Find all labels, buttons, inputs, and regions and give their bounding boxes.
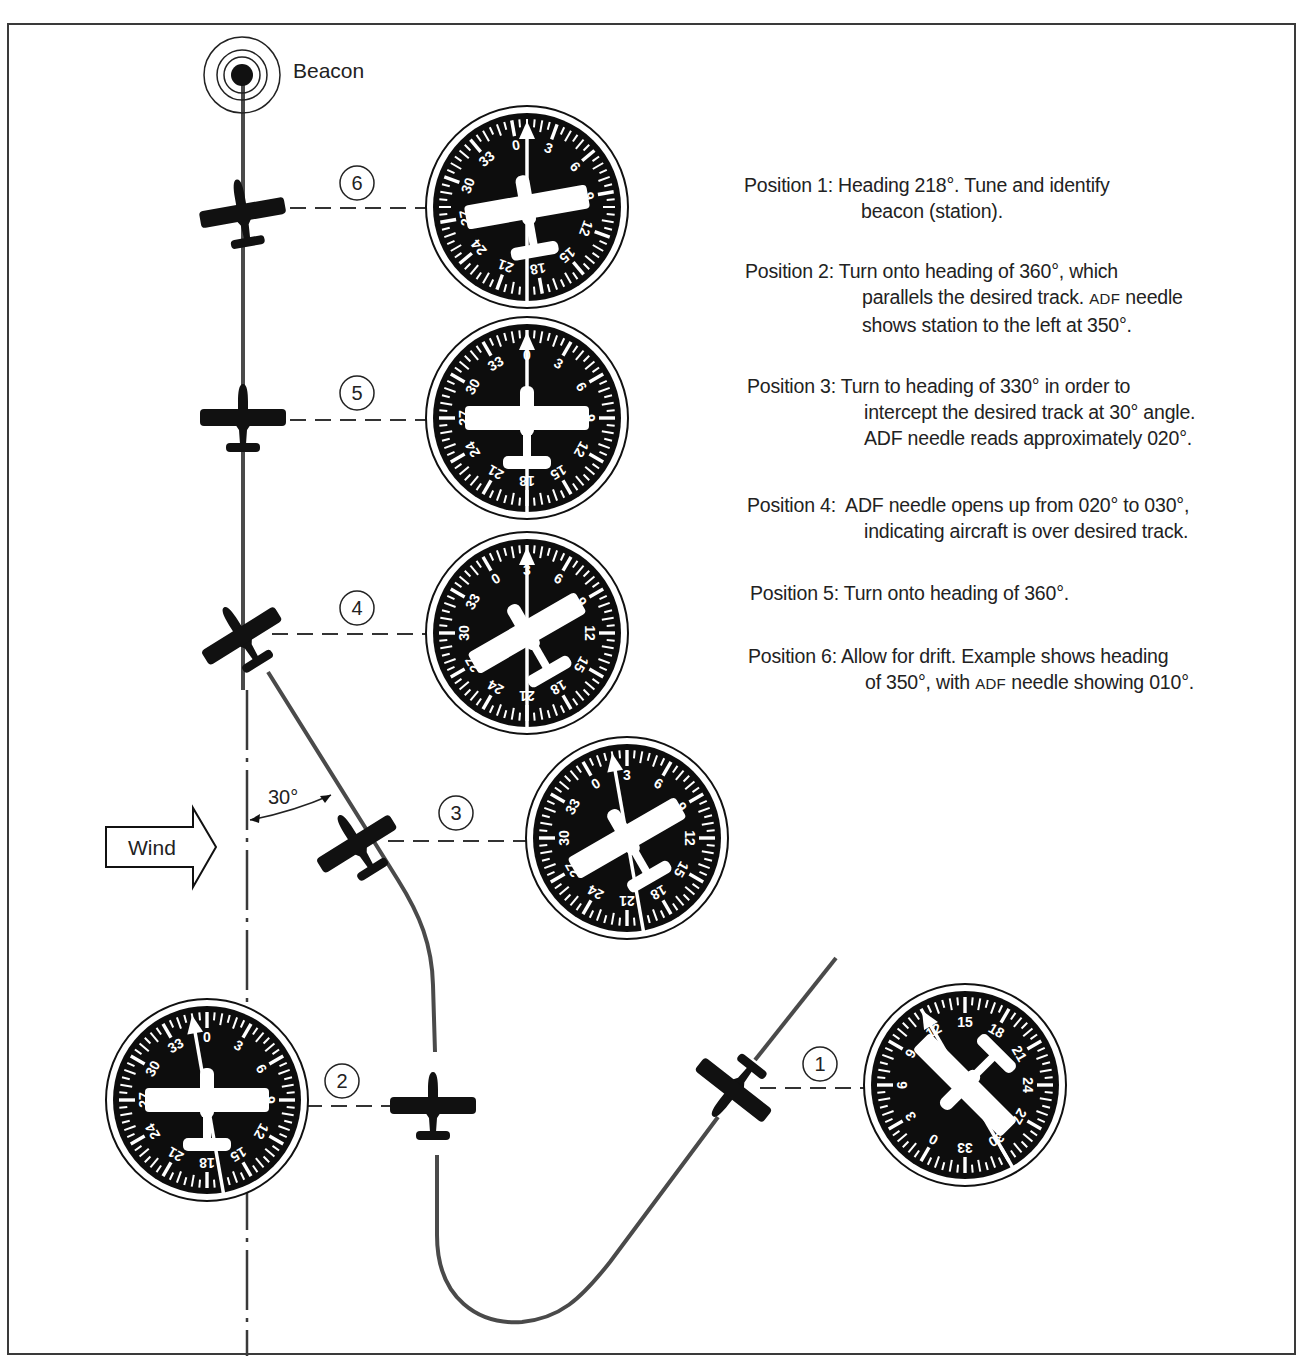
note-position-3: Position 3: Turn to heading of 330° in o… — [747, 373, 1195, 451]
svg-text:24: 24 — [1020, 1077, 1036, 1093]
wind-label: Wind — [128, 836, 176, 859]
note-position-1: Position 1: Heading 218°. Tune and ident… — [744, 172, 1110, 224]
svg-text:12: 12 — [682, 830, 698, 846]
svg-text:33: 33 — [957, 1140, 973, 1156]
note-position-4: Position 4: ADF needle opens up from 020… — [747, 492, 1189, 544]
position-marker-3: 3 — [439, 796, 473, 830]
svg-text:6: 6 — [351, 172, 362, 194]
position-marker-4: 4 — [340, 591, 374, 625]
dial-2: 03691215182124273033 — [106, 999, 308, 1201]
angle-label: 30° — [268, 786, 298, 808]
svg-text:21: 21 — [619, 893, 635, 909]
position-marker-2: 2 — [325, 1064, 359, 1098]
position-marker-6: 6 — [340, 166, 374, 200]
flight-path-segment — [755, 958, 836, 1060]
svg-text:6: 6 — [894, 1081, 910, 1089]
dial-1: 03691215182124273033 — [845, 965, 1085, 1205]
svg-text:30: 30 — [456, 625, 472, 641]
svg-text:18: 18 — [529, 260, 547, 278]
note-position-5: Position 5: Turn onto heading of 360°. — [750, 580, 1069, 606]
dial-3: 03691215182124273033 — [507, 718, 747, 958]
flight-path-segment — [437, 1117, 718, 1322]
svg-text:4: 4 — [351, 597, 362, 619]
dial-5: 03691215182124273033 — [426, 317, 628, 519]
svg-text:15: 15 — [957, 1014, 973, 1030]
note-position-2: Position 2: Turn onto heading of 360°, w… — [745, 258, 1183, 338]
aircraft-position-5 — [200, 384, 286, 452]
svg-text:18: 18 — [199, 1155, 215, 1171]
svg-text:1: 1 — [814, 1053, 825, 1075]
adf-intercept-diagram: Beacon 30° Wind 123456 — [0, 0, 1302, 1363]
svg-text:0: 0 — [203, 1029, 211, 1045]
aircraft-position-1 — [679, 1036, 789, 1143]
svg-text:12: 12 — [582, 625, 598, 641]
position-marker-5: 5 — [340, 376, 374, 410]
aircraft-position-3 — [302, 793, 411, 896]
svg-text:3: 3 — [450, 802, 461, 824]
position-marker-1: 1 — [803, 1047, 837, 1081]
aircraft-position-2 — [390, 1072, 476, 1140]
dial-6: 03691215182124273033 — [425, 105, 629, 309]
svg-text:5: 5 — [351, 382, 362, 404]
dial-4: 03691215182124273033 — [407, 513, 647, 753]
flight-path-segment — [268, 672, 435, 1052]
svg-text:30: 30 — [556, 830, 572, 846]
beacon-label: Beacon — [293, 59, 364, 82]
svg-text:2: 2 — [336, 1070, 347, 1092]
svg-text:3: 3 — [623, 767, 631, 783]
note-position-6: Position 6: Allow for drift. Example sho… — [748, 643, 1194, 697]
